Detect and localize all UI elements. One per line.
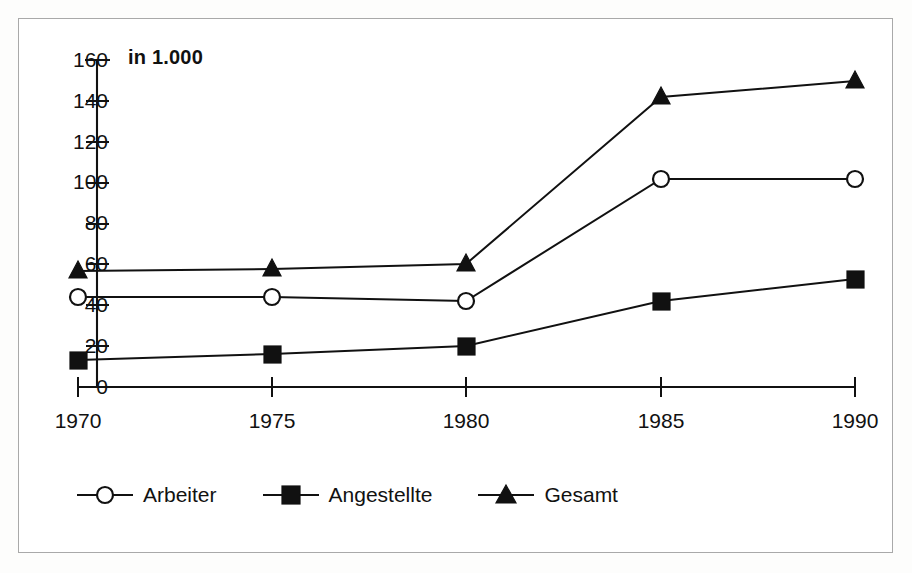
chart-figure: in 1.000 160 140 120 100 80 60 40 20 0 1… bbox=[0, 0, 912, 573]
chart-legend: Arbeiter Angestellte Gesamt bbox=[75, 474, 618, 516]
legend-item-arbeiter[interactable]: Arbeiter bbox=[75, 482, 217, 508]
legend-label-angestellte: Angestellte bbox=[329, 483, 433, 507]
filled-square-marker-icon bbox=[261, 482, 321, 508]
filled-triangle-marker-icon bbox=[476, 482, 536, 508]
series-gesamt bbox=[69, 71, 864, 278]
legend-item-angestellte[interactable]: Angestellte bbox=[261, 482, 433, 508]
series-angestellte bbox=[70, 271, 864, 369]
series-arbeiter bbox=[70, 171, 863, 309]
legend-item-gesamt[interactable]: Gesamt bbox=[476, 482, 618, 508]
legend-label-arbeiter: Arbeiter bbox=[143, 483, 217, 507]
open-circle-marker-icon bbox=[75, 482, 135, 508]
legend-label-gesamt: Gesamt bbox=[544, 483, 618, 507]
